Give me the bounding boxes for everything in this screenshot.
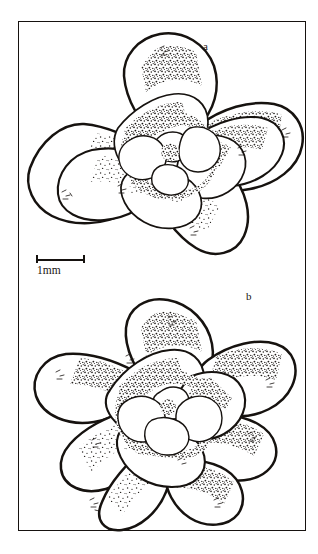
figure-b-rosette [35,299,296,530]
panel-label-a: a [203,41,208,52]
scale-bar-cap-right [83,255,85,263]
illustration-plate: a b 1mm [0,0,318,554]
figure-a-rosette [28,33,303,253]
panel-label-b: b [246,291,252,302]
scale-bar-label: 1mm [37,264,100,277]
scale-bar-cap-left [36,255,38,263]
plate-artwork [0,0,318,554]
scale-bar: 1mm [36,255,100,277]
scale-bar-line [36,255,85,263]
